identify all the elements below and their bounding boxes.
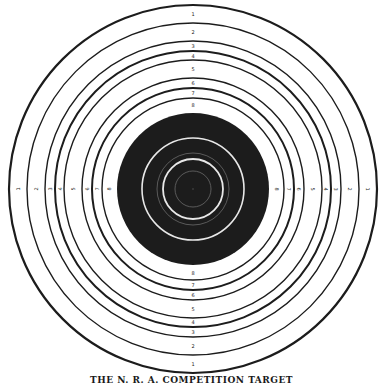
score-label: 3 — [47, 187, 53, 190]
shooting-target: 11112222333344445555666677778888 — [0, 0, 383, 383]
score-label: 5 — [70, 187, 76, 190]
score-label: 8 — [106, 187, 112, 190]
score-label: 4 — [323, 187, 329, 190]
score-label: 4 — [191, 319, 194, 325]
center-dot — [192, 188, 194, 190]
score-label: 5 — [191, 306, 194, 312]
target-caption: THE N. R. A. COMPETITION TARGET — [0, 375, 383, 383]
score-label: 8 — [191, 270, 194, 276]
score-label: 2 — [191, 343, 194, 349]
score-label: 6 — [296, 187, 302, 190]
score-label: 7 — [286, 187, 292, 190]
score-label: 7 — [191, 282, 194, 288]
score-label: 6 — [191, 80, 194, 86]
score-label: 8 — [191, 102, 194, 108]
score-label: 2 — [347, 187, 353, 190]
score-label: 6 — [191, 292, 194, 298]
score-label: 5 — [310, 187, 316, 190]
score-label: 6 — [84, 187, 90, 190]
score-label: 1 — [15, 187, 21, 190]
score-label: 5 — [191, 66, 194, 72]
score-label: 2 — [191, 29, 194, 35]
score-label: 2 — [33, 187, 39, 190]
score-label: 3 — [333, 187, 339, 190]
score-label: 3 — [191, 43, 194, 49]
score-label: 4 — [191, 53, 194, 59]
score-label: 8 — [274, 187, 280, 190]
score-label: 7 — [94, 187, 100, 190]
score-label: 1 — [191, 11, 194, 17]
score-label: 1 — [365, 187, 371, 190]
score-label: 7 — [191, 90, 194, 96]
score-label: 1 — [191, 361, 194, 367]
score-label: 3 — [191, 329, 194, 335]
score-label: 4 — [57, 187, 63, 190]
